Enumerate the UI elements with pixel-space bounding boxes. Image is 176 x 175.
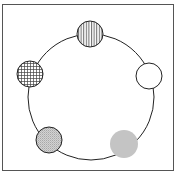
node-circle-bottom-right	[110, 130, 138, 158]
node-group	[17, 21, 162, 158]
node-circle-bottom-left	[36, 127, 62, 153]
node-circle-right	[136, 63, 162, 89]
node-circle-left	[17, 61, 43, 87]
node-circle-top	[77, 21, 103, 47]
diagram-canvas	[0, 0, 176, 175]
